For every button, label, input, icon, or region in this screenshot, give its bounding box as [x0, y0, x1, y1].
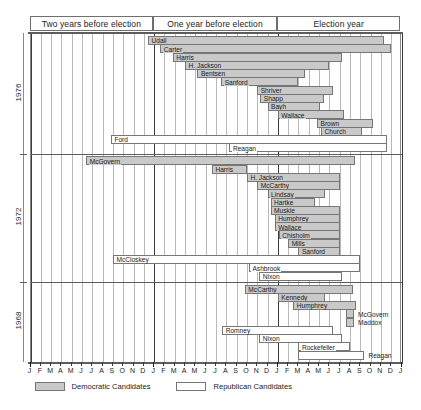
campaign-bar-label: Muskie [273, 207, 296, 214]
campaign-bar-label: Bayh [270, 103, 287, 110]
campaign-bar-label: Harris [214, 166, 234, 173]
legend: Democratic CandidatesRepublican Candidat… [35, 382, 318, 391]
campaign-bar-label: Shapp [263, 95, 284, 102]
month-gridline [82, 33, 83, 362]
month-tick [40, 362, 41, 366]
legend-swatch-dem [35, 382, 65, 391]
month-gridline [134, 33, 135, 362]
year-separator [31, 154, 402, 155]
year-label-1968: 1968 [13, 308, 22, 332]
campaign-bar-label: Maddox [357, 319, 382, 326]
month-tick [256, 362, 257, 366]
month-gridline [329, 33, 330, 362]
month-tick [287, 362, 288, 366]
campaign-bar[interactable]: Harris [212, 165, 247, 174]
month-tick [174, 362, 175, 366]
campaign-bar-label: Hartke [273, 199, 294, 206]
legend-swatch-rep [176, 382, 206, 391]
month-tick-label: J [395, 367, 407, 374]
month-tick [328, 362, 329, 366]
campaign-bar-label: Ashbrook [251, 265, 281, 272]
campaign-bar-label: Shriver [260, 87, 283, 94]
period-band-label: Two years before election [42, 19, 141, 29]
campaign-bar-label: Nixon [262, 335, 281, 342]
month-gridline [216, 33, 217, 362]
month-gridline [206, 33, 207, 362]
campaign-bar[interactable]: Maddox [346, 318, 354, 327]
month-tick [122, 362, 123, 366]
year-axis-tick [20, 282, 27, 283]
month-tick [205, 362, 206, 366]
month-gridline [144, 33, 145, 362]
month-tick [184, 362, 185, 366]
campaign-bar[interactable]: Reagan [229, 143, 387, 152]
campaign-bar-label: Ford [113, 136, 129, 143]
campaign-bar-label: Lindsay [270, 191, 295, 198]
month-gridline [391, 33, 392, 362]
plot-area: UdallCarterHarrisH. JacksonBentsenSanfor… [30, 33, 401, 362]
campaign-bar-label: Church [324, 128, 347, 135]
month-gridline [92, 33, 93, 362]
month-tick [349, 362, 350, 366]
legend-label: Republican Candidates [213, 382, 292, 391]
month-tick [215, 362, 216, 366]
month-tick [60, 362, 61, 366]
month-tick [225, 362, 226, 366]
month-tick [267, 362, 268, 366]
month-tick [370, 362, 371, 366]
month-tick [91, 362, 92, 366]
month-gridline [61, 33, 62, 362]
campaign-bar-label: McCloskey [115, 256, 149, 263]
month-gridline [164, 33, 165, 362]
campaign-bar[interactable]: Nixon [259, 272, 341, 281]
month-tick [143, 362, 144, 366]
month-tick [163, 362, 164, 366]
period-band-label: Election year [313, 19, 363, 29]
plot-top-rule [28, 32, 403, 34]
campaign-bar-label: Kennedy [280, 294, 308, 301]
campaign-bar-label: Reagan [367, 352, 392, 359]
month-gridline [340, 33, 341, 362]
month-tick [318, 362, 319, 366]
campaign-bar-label: Wallace [277, 224, 302, 231]
campaign-bar-label: Rockefeller [301, 344, 336, 351]
campaign-bar-label: Wallace [280, 112, 305, 119]
year-gridline [31, 33, 32, 362]
campaign-bar-label: H. Jackson [188, 62, 223, 69]
campaign-bar-label: H. Jackson [249, 174, 284, 181]
month-gridline [195, 33, 196, 362]
legend-label: Democratic Candidates [72, 382, 151, 391]
year-gridline [402, 33, 403, 362]
campaign-bar-label: McCarthy [260, 182, 290, 189]
campaign-bar-label: Sanford [224, 79, 249, 86]
campaign-bar-label: McGovern [89, 158, 121, 165]
chart-root: Two years before electionOne year before… [0, 0, 421, 410]
year-axis-line [23, 33, 24, 362]
campaign-bar-label: Bentsen [200, 70, 226, 77]
period-band-label: One year before election [167, 19, 263, 29]
month-tick [81, 362, 82, 366]
campaign-bar[interactable]: Reagan [298, 351, 364, 360]
campaign-bar-label: Udall [150, 37, 167, 44]
year-separator [31, 282, 402, 283]
month-gridline [103, 33, 104, 362]
month-gridline [185, 33, 186, 362]
month-tick [194, 362, 195, 366]
year-label-1972: 1972 [13, 205, 22, 229]
month-tick [339, 362, 340, 366]
campaign-bar-label: Harris [175, 54, 195, 61]
month-tick [390, 362, 391, 366]
month-tick [359, 362, 360, 366]
campaign-bar-label: Sanford [301, 248, 326, 255]
legend-item-rep[interactable]: Republican Candidates [176, 382, 292, 391]
year-label-1976: 1976 [13, 80, 22, 104]
month-tick [102, 362, 103, 366]
campaign-bar-label: Chisholm [281, 232, 310, 239]
campaign-bar-label: Reagan [232, 145, 257, 152]
legend-item-dem[interactable]: Democratic Candidates [35, 382, 151, 391]
campaign-bar-label: Humphrey [296, 302, 328, 309]
month-gridline [72, 33, 73, 362]
campaign-bar-label: Carter [163, 46, 183, 53]
year-axis-tick [20, 154, 27, 155]
campaign-bar-label: Brown [319, 120, 340, 127]
